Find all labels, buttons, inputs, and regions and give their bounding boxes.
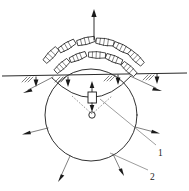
hatch-group-3 [104, 76, 115, 81]
fragment-inner-4 [105, 52, 124, 65]
hatch-group-4 [143, 75, 154, 80]
blast-schematic-figure: 1 2 [0, 0, 189, 191]
fragment-inner-1 [53, 57, 71, 74]
fragment-inner-2 [69, 50, 88, 63]
callout-1-leader [100, 99, 156, 145]
ejection-axis-arrow [91, 9, 96, 40]
charge-symbol [88, 92, 96, 103]
callout-1: 1 [158, 142, 163, 160]
fragment-outer-1 [42, 46, 60, 65]
hatch-group-1 [22, 77, 33, 82]
fragment-outer-6 [127, 49, 146, 67]
ground-surface-line [2, 73, 187, 76]
charge-downlift-arrow [90, 103, 95, 112]
radial-arrow-right [135, 127, 160, 134]
schematic-canvas [0, 0, 189, 191]
callout-2-leader [110, 153, 148, 170]
fragment-outer-3 [76, 35, 95, 47]
radial-arrow-left [22, 128, 48, 135]
radial-arrow-lower-right [113, 154, 124, 176]
center-hub [89, 112, 95, 118]
fragment-inner-5 [120, 60, 138, 77]
radial-arrow-lower-left [58, 156, 70, 182]
callout-2: 2 [150, 166, 155, 184]
callout-1-label: 1 [158, 148, 163, 158]
fragment-inner-3 [88, 51, 105, 59]
surface-arrow-2 [66, 77, 71, 87]
fragment-outer-2 [57, 38, 77, 54]
callout-2-label: 2 [150, 172, 155, 182]
surface-arrow-4 [155, 74, 160, 84]
fragment-outer-4 [95, 37, 114, 48]
